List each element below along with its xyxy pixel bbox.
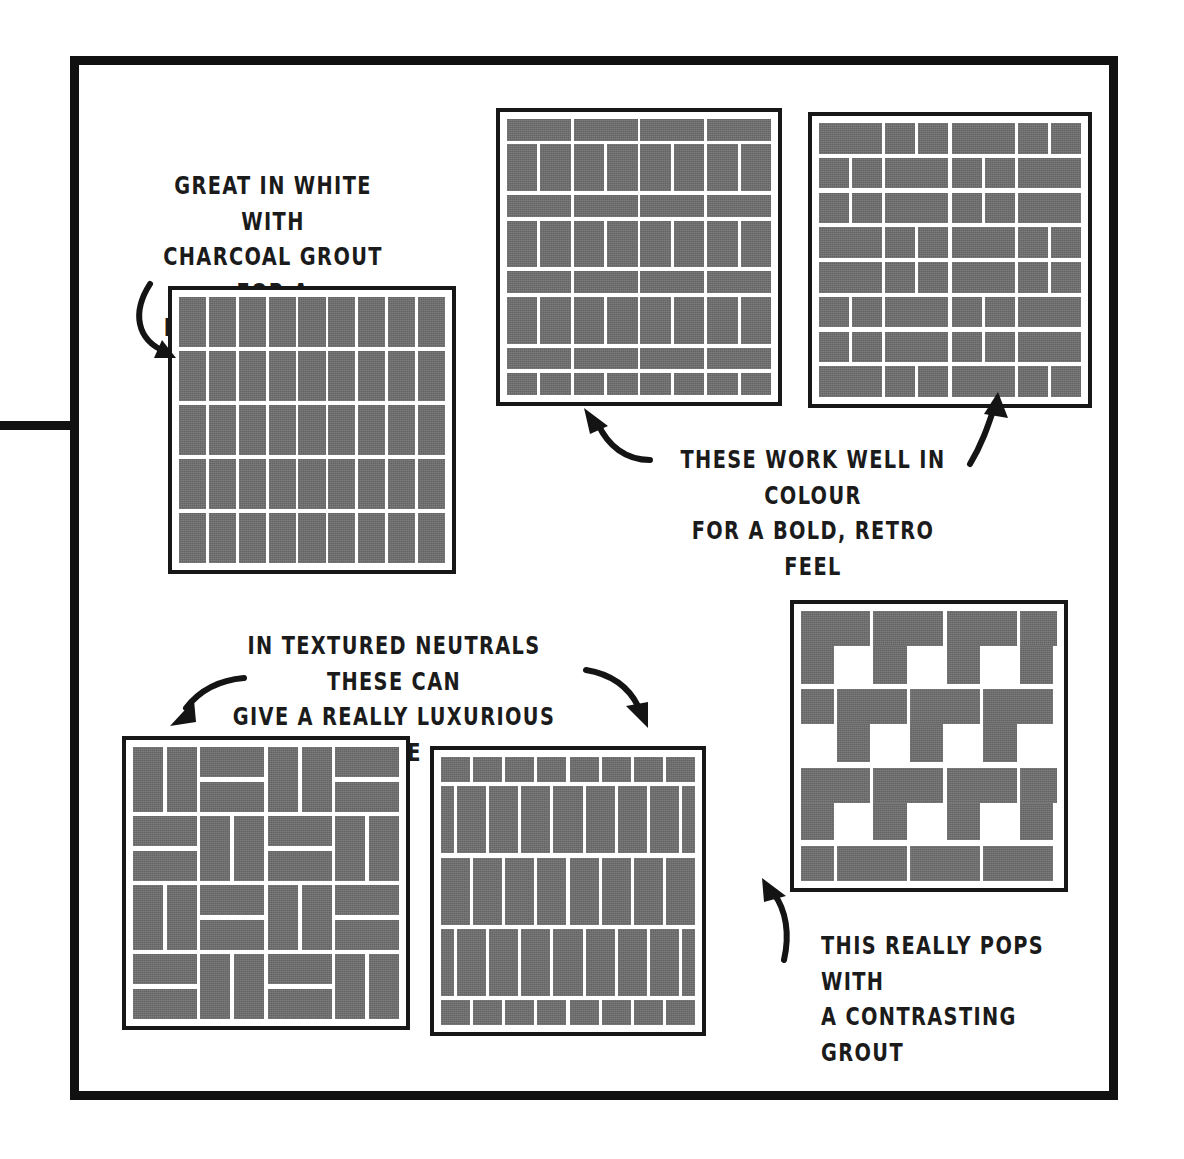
tile	[388, 351, 415, 401]
tile	[505, 1000, 534, 1025]
arrow-to-crosshatch-panel	[962, 392, 1042, 472]
tile-field	[179, 297, 445, 563]
tile	[269, 459, 296, 509]
tile	[801, 689, 834, 724]
tile	[457, 786, 486, 853]
tile	[507, 144, 537, 191]
tile	[885, 158, 948, 189]
tile	[682, 929, 695, 996]
tile	[607, 221, 637, 268]
tile	[918, 262, 948, 293]
tile	[269, 351, 296, 401]
tile	[1051, 366, 1081, 397]
tile	[358, 351, 385, 401]
tile	[666, 858, 695, 925]
tile	[1051, 123, 1081, 154]
tile	[133, 954, 197, 984]
tile	[505, 858, 534, 925]
tile-field	[441, 757, 695, 1025]
tile	[418, 297, 445, 347]
tile	[819, 158, 849, 189]
tile	[507, 348, 571, 370]
illustration-canvas: GREAT IN WHITE WITH CHARCOAL GROUT FOR A…	[0, 0, 1184, 1159]
tile	[741, 373, 771, 395]
tile	[521, 929, 550, 996]
tile	[441, 1000, 470, 1025]
tile	[1018, 227, 1048, 258]
tile	[947, 768, 1016, 803]
arrow-to-double-basketweave	[162, 664, 256, 748]
tile	[741, 297, 771, 344]
tile	[358, 297, 385, 347]
tile	[335, 816, 365, 881]
tile	[640, 297, 670, 344]
tile	[985, 332, 1015, 363]
tile	[1018, 262, 1048, 293]
tile	[1018, 332, 1081, 363]
panel-vertical-running-bond	[430, 746, 706, 1036]
tile	[819, 332, 849, 363]
tile	[441, 929, 454, 996]
tile	[473, 757, 502, 782]
tile-sheet	[496, 108, 782, 406]
tile	[133, 885, 163, 950]
tile	[268, 851, 332, 881]
tile	[507, 195, 571, 217]
tile	[328, 405, 355, 455]
tile	[209, 513, 236, 563]
tile	[952, 227, 1015, 258]
tile	[553, 929, 582, 996]
tile	[852, 297, 882, 328]
tile	[607, 297, 637, 344]
tile	[984, 689, 1053, 724]
tile	[574, 195, 638, 217]
tile	[239, 513, 266, 563]
tile	[1051, 227, 1081, 258]
tile	[239, 297, 266, 347]
tile	[209, 405, 236, 455]
tile	[574, 221, 604, 268]
tile	[268, 816, 332, 846]
tile	[682, 786, 695, 853]
tile	[268, 885, 298, 950]
tile	[388, 459, 415, 509]
tile	[388, 513, 415, 563]
tile	[133, 816, 197, 846]
tile	[537, 1000, 566, 1025]
tile	[640, 119, 704, 141]
tile	[200, 920, 264, 950]
tile	[418, 513, 445, 563]
tile	[741, 144, 771, 191]
panel-crosshatch-basketweave	[808, 112, 1092, 408]
tile	[200, 747, 264, 777]
tile	[574, 373, 604, 395]
tile	[852, 193, 882, 224]
tile	[640, 195, 704, 217]
tile	[268, 747, 298, 812]
tile	[911, 846, 980, 881]
tile-field	[801, 611, 1057, 881]
tile	[234, 954, 264, 1019]
tile	[819, 193, 849, 224]
tile	[239, 351, 266, 401]
tile	[634, 1000, 663, 1025]
tile	[1018, 193, 1081, 224]
caption-colour-retro: THESE WORK WELL IN COLOUR FOR A BOLD, RE…	[671, 442, 955, 584]
tile	[200, 954, 230, 1019]
tile	[570, 757, 599, 782]
tile	[328, 297, 355, 347]
tile	[418, 459, 445, 509]
tile-sheet	[808, 112, 1092, 408]
tile	[640, 373, 670, 395]
tile	[602, 1000, 631, 1025]
tile	[1018, 123, 1048, 154]
tile	[537, 858, 566, 925]
tile	[952, 297, 982, 328]
tile	[1021, 611, 1057, 646]
tile	[819, 297, 849, 328]
tile-field	[507, 119, 771, 395]
tile	[602, 858, 631, 925]
tile	[1018, 297, 1081, 328]
tile	[328, 459, 355, 509]
tile	[507, 119, 571, 141]
